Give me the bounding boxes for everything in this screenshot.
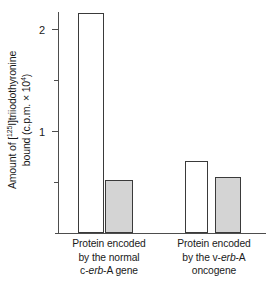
y-axis-title-isotope-superscript: 125 (6, 126, 13, 137)
y-axis-title-line-1: Amount of [125I]triiodothyronine (6, 4, 20, 236)
x-category-label-group0: Protein encoded by the normal c-erb-A ge… (55, 237, 163, 278)
y-axis-title-line-1-prefix: Amount of [ (6, 137, 18, 189)
x-category-label-group0-line3-post: -A gene (103, 265, 138, 276)
x-axis-line (55, 233, 266, 234)
x-category-label-group1-line2-pre: by the v- (182, 252, 221, 263)
y-axis-line (58, 12, 59, 234)
y-tick-0.5 (54, 182, 59, 183)
y-axis-title-container: Amount of [125I]triiodothyronine bound (… (0, 0, 48, 240)
bar-chart-figure: Amount of [125I]triiodothyronine bound (… (0, 0, 275, 296)
x-category-label-group1-line3: oncogene (160, 264, 268, 278)
bar-group1-shaded (215, 177, 241, 233)
x-category-label-group1-line2-post: -A (236, 252, 246, 263)
y-tick-label-2: 2 (39, 24, 45, 35)
x-category-label-group0-gene-italic: erb (89, 265, 104, 276)
x-category-label-group1-line2: by the v-erb-A (160, 251, 268, 265)
y-axis-title-line-2-prefix: bound (c.p.m. × 10 (20, 81, 32, 166)
bar-group0-open (78, 13, 104, 233)
y-axis-title-line-1-suffix: I]triiodothyronine (6, 51, 18, 126)
x-category-label-group0-line2: by the normal (55, 251, 163, 265)
x-category-label-group0-line3-pre: c- (80, 265, 88, 276)
x-axis-category-labels: Protein encoded by the normal c-erb-A ge… (55, 237, 275, 293)
y-axis-title-line-2: bound (c.p.m. × 104) (20, 4, 34, 236)
x-category-label-group0-line1: Protein encoded (55, 237, 163, 251)
x-category-label-group0-line3: c-erb-A gene (55, 264, 163, 278)
y-axis-title-line-2-suffix: ) (20, 74, 32, 77)
y-axis-title: Amount of [125I]triiodothyronine bound (… (6, 4, 42, 236)
plot-area: 1 2 (58, 12, 264, 234)
y-axis-title-exponent-superscript: 4 (19, 77, 26, 81)
y-tick-2 (52, 29, 59, 30)
y-tick-label-1: 1 (39, 126, 45, 137)
x-category-label-group1-line1: Protein encoded (160, 237, 268, 251)
x-category-label-group1: Protein encoded by the v-erb-A oncogene (160, 237, 268, 278)
x-category-label-group1-gene-italic: erb (221, 252, 236, 263)
bar-group1-open (185, 161, 208, 233)
y-tick-1 (52, 131, 59, 132)
y-tick-1.5 (54, 80, 59, 81)
bar-group0-shaded (105, 180, 133, 233)
